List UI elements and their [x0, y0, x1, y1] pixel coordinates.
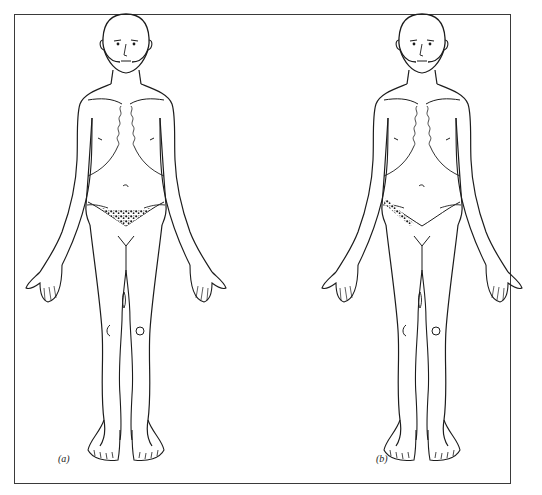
- shaded-region-suprapubic: [100, 208, 152, 226]
- shaded-region-right-inguinal: [384, 198, 414, 226]
- body-figure-a: [0, 0, 260, 495]
- panel-label-b: (b): [376, 453, 388, 464]
- body-figure-b: [296, 0, 542, 495]
- panel-label-a: (a): [58, 453, 70, 464]
